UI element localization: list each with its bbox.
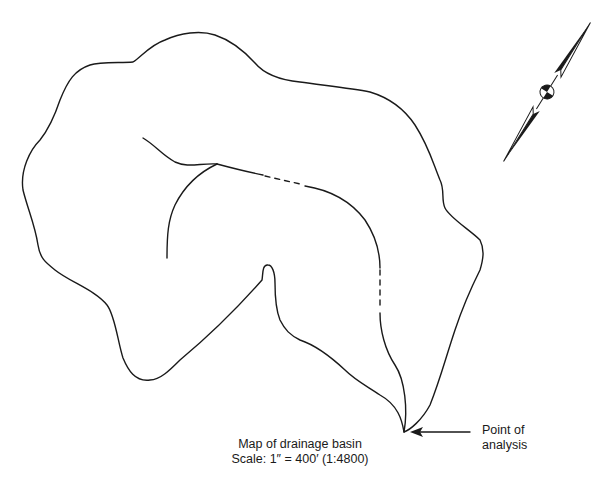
main-channel-upper: [217, 164, 263, 175]
drainage-basin-map: Map of drainage basin Scale: 1″ = 400′ (…: [0, 0, 595, 493]
main-channel-middle: [305, 186, 380, 268]
point-of-analysis-line2: analysis: [482, 438, 527, 453]
north-arrow-icon: [498, 19, 595, 165]
map-canvas: [0, 0, 595, 493]
map-caption: Map of drainage basin Scale: 1″ = 400′ (…: [215, 437, 385, 467]
basin-boundary: [22, 33, 483, 432]
main-channel-lower: [380, 313, 406, 432]
map-title: Map of drainage basin: [215, 437, 385, 452]
map-scale: Scale: 1″ = 400′ (1:4800): [215, 452, 385, 467]
tributary-stub: [167, 164, 217, 258]
point-of-analysis-label: Point of analysis: [482, 423, 527, 453]
main-channel-dashed-segment: [265, 176, 300, 184]
tributary-channel: [143, 138, 217, 165]
point-of-analysis-line1: Point of: [482, 423, 527, 438]
